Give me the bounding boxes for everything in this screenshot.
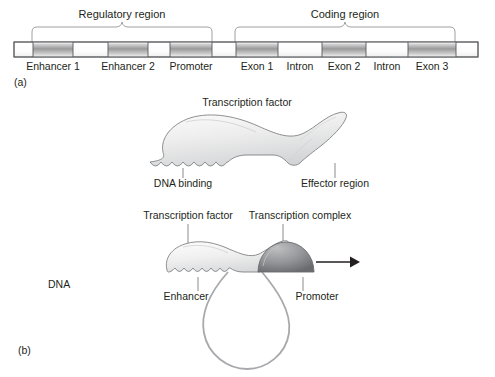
segment-exon-1 [236,43,278,57]
segment-enhancer-1 [33,43,73,57]
segment-intron-2 [366,43,408,57]
bracket-label-regulatory-region: Regulatory region [79,8,166,20]
gene-regulation-figure: Regulatory region Coding region [0,0,495,377]
bracket-coding-region [235,22,455,44]
segment-label-enhancer-1: Enhancer 1 [26,60,80,72]
segment-label-exon-1: Exon 1 [241,60,274,72]
panel-a: Regulatory region Coding region [14,8,478,88]
panel-b-bound-complex: Transcription factor Transcription compl… [18,209,470,369]
bracket-label-coding-region: Coding region [311,8,380,20]
segment-exon-3 [408,43,456,57]
bracket-regulatory-region [32,22,212,44]
transcription-factor-shape [150,112,347,166]
segment-label-exon-2: Exon 2 [328,60,361,72]
segment-intron-1 [278,43,322,57]
segment-label-promoter: Promoter [169,60,213,72]
panel-b-transcription-factor-detail: Transcription factor DNA binding Effecto… [150,96,369,189]
label-dna-binding: DNA binding [154,177,213,189]
segment-exon-2 [322,43,366,57]
segment-label-enhancer-2: Enhancer 2 [101,60,155,72]
label-promoter: Promoter [295,290,339,302]
segment-label-intron-2: Intron [374,60,401,72]
transcription-direction-arrow [316,257,360,268]
segment-promoter [170,43,212,57]
tf-detail-title: Transcription factor [202,96,292,108]
dna-loop [203,272,289,369]
label-enhancer: Enhancer [164,290,209,302]
panel-a-id: (a) [14,76,27,88]
segment-enhancer-2 [108,43,148,57]
label-transcription-complex: Transcription complex [249,209,352,221]
label-dna: DNA [48,278,70,290]
segment-label-exon-3: Exon 3 [416,60,449,72]
segment-label-intron-1: Intron [287,60,314,72]
label-bound-transcription-factor: Transcription factor [143,209,233,221]
panel-b-id: (b) [18,344,31,356]
label-effector-region: Effector region [301,177,369,189]
